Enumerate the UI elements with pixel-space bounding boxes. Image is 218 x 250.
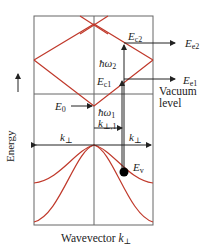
vacuum-label: Vacuum xyxy=(159,86,197,98)
band-structure-diagram: Ec2 Ee2 ħω2 Ec1 Ee1 Vacuum level E0 ħω1 … xyxy=(0,0,218,250)
valence-state-dot xyxy=(120,168,129,177)
k-perp-left-label: k⊥ xyxy=(60,132,72,145)
e0-label: E0 xyxy=(55,101,66,114)
wavevector-axis-label: Wavevector k⊥ xyxy=(61,233,131,246)
ec2-outer-label: Ee2 xyxy=(185,38,199,51)
hw2-label: ħω2 xyxy=(99,58,116,71)
energy-axis-label: Energy xyxy=(4,130,16,162)
k-perp-right-label: k⊥ xyxy=(129,132,141,145)
ec2-inner-label: Ec2 xyxy=(128,31,142,44)
level-label: level xyxy=(159,98,181,110)
k-perp1-label: k⊥,1 xyxy=(98,118,116,131)
ev-label: Ev xyxy=(133,162,144,175)
ec1-inner-label: Ec1 xyxy=(97,76,111,89)
